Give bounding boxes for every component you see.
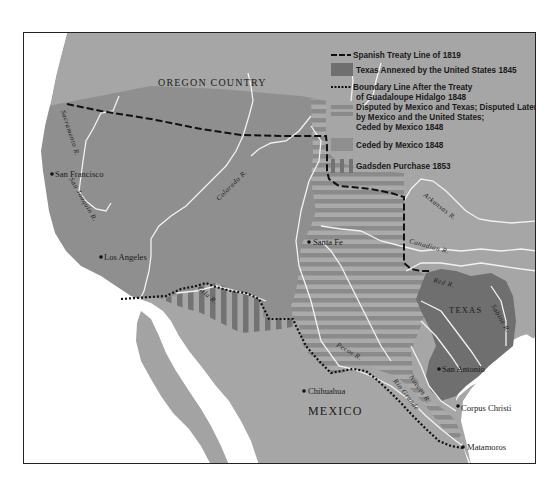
legend-gadsden-swatch-1 xyxy=(331,159,335,173)
legend-gadsden-swatch-2 xyxy=(340,159,344,173)
legend-gadsden-swatch-3 xyxy=(349,159,353,173)
legend-ceded-swatch xyxy=(331,138,353,151)
label-texas: TEXAS xyxy=(449,305,482,315)
legend-boundary-label-1: Boundary Line After the Treaty xyxy=(353,83,473,92)
city-marker-chihuahua xyxy=(302,389,306,393)
legend-ceded-label: Ceded by Mexico 1848 xyxy=(356,141,444,150)
city-marker-san-antonio xyxy=(437,367,441,371)
city-chihuahua: Chihuahua xyxy=(308,386,345,396)
legend-disputed-label-2: by Mexico and the United States; xyxy=(356,113,484,122)
city-corpus-christi: Corpus Christi xyxy=(461,403,512,413)
city-marker-matamoros xyxy=(461,445,465,449)
city-matamoros: Matamoros xyxy=(467,442,507,452)
legend-disputed-label-1: Disputed by Mexico and Texas; Disputed L… xyxy=(356,103,536,112)
legend-boundary-label-2: of Guadaloupe Hidalgo 1848 xyxy=(356,93,467,102)
city-marker-los-angeles xyxy=(99,255,103,259)
city-san-antonio: San Antonio xyxy=(442,364,485,374)
map-frame: Spanish Treaty Line of 1819 Texas Annexe… xyxy=(23,32,536,464)
city-san-francisco: San Francisco xyxy=(55,169,103,179)
legend-gadsden-label: Gadsden Purchase 1853 xyxy=(356,162,451,171)
city-marker-san-francisco xyxy=(50,172,54,176)
legend-disputed-swatch-b xyxy=(331,112,353,116)
legend-spanish-treaty-label: Spanish Treaty Line of 1819 xyxy=(353,51,461,60)
legend-disputed-swatch-a xyxy=(331,105,353,109)
label-oregon-country: OREGON COUNTRY xyxy=(158,77,267,88)
legend-disputed-label-3: Ceded by Mexico 1848 xyxy=(356,123,444,132)
legend-texas-swatch xyxy=(331,63,353,76)
city-marker-corpus-christi xyxy=(456,404,460,408)
historical-map: Spanish Treaty Line of 1819 Texas Annexe… xyxy=(24,33,536,464)
legend-texas-label: Texas Annexed by the United States 1845 xyxy=(356,66,517,75)
city-los-angeles: Los Angeles xyxy=(104,252,147,262)
label-mexico: MEXICO xyxy=(308,404,363,418)
city-marker-santa-fe xyxy=(307,240,311,244)
city-santa-fe: Santa Fe xyxy=(313,237,343,247)
